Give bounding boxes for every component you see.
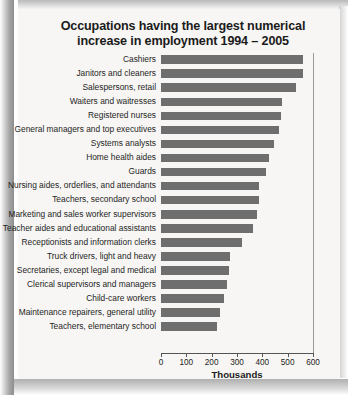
x-axis-tick-label: 200 — [205, 358, 219, 367]
bar — [161, 252, 230, 261]
x-axis-title: Thousands — [161, 369, 313, 380]
bar — [161, 266, 229, 275]
bar-row: Salespersons, retail — [18, 81, 340, 95]
bar-row: Nursing aides, orderlies, and attendants — [18, 179, 340, 193]
page-edge-shadow-right — [339, 6, 348, 378]
page-edge-shadow-bottom — [14, 379, 348, 395]
bar-category-label: Teacher aides and educational assistants — [3, 222, 156, 235]
bar-row: Guards — [18, 165, 340, 179]
bar-category-label: Marketing and sales worker supervisors — [8, 208, 156, 221]
scanned-page: Occupations having the largest numerical… — [0, 0, 348, 395]
bar-category-label: Systems analysts — [91, 137, 156, 150]
bar-row: Child-care workers — [18, 292, 340, 306]
plot-right-border — [313, 53, 314, 353]
bar-row: General managers and top executives — [18, 123, 340, 137]
bar — [161, 168, 266, 177]
bar-row: Clerical supervisors and managers — [18, 278, 340, 292]
bar — [161, 210, 257, 219]
bar — [161, 83, 296, 92]
bar — [161, 98, 282, 107]
bar — [161, 224, 253, 233]
bar-category-label: Child-care workers — [86, 292, 156, 305]
page-edge-shadow-left — [0, 0, 14, 395]
x-axis-tick-label: 0 — [159, 358, 164, 367]
bar — [161, 182, 259, 191]
bar — [161, 238, 242, 247]
bar-category-label: Guards — [129, 165, 156, 178]
x-axis-tick-label: 400 — [255, 358, 269, 367]
bar-row: Cashiers — [18, 53, 340, 67]
x-axis-tick-label: 600 — [306, 358, 320, 367]
bar-chart-plot-area: CashiersJanitors and cleanersSalesperson… — [18, 53, 340, 353]
x-axis-tick-label: 500 — [281, 358, 295, 367]
bar-category-label: General managers and top executives — [14, 123, 156, 136]
bar — [161, 126, 279, 135]
bar-category-label: Salespersons, retail — [82, 81, 156, 94]
bar-category-label: Secretaries, except legal and medical — [17, 264, 156, 277]
bar — [161, 140, 274, 149]
bar-category-label: Registered nurses — [88, 109, 156, 122]
chart-title: Occupations having the largest numerical… — [38, 19, 328, 49]
x-axis-tick — [288, 353, 289, 357]
bar-row: Teacher aides and educational assistants — [18, 222, 340, 236]
bar-row: Secretaries, except legal and medical — [18, 264, 340, 278]
bar-row: Janitors and cleaners — [18, 67, 340, 81]
bar-category-label: Waiters and waitresses — [70, 95, 156, 108]
bar-category-label: Truck drivers, light and heavy — [47, 250, 156, 263]
bar — [161, 69, 303, 78]
bar-row: Marketing and sales worker supervisors — [18, 208, 340, 222]
bar-row: Truck drivers, light and heavy — [18, 250, 340, 264]
bar-category-label: Teachers, elementary school — [49, 320, 156, 333]
x-axis-tick-label: 100 — [179, 358, 193, 367]
bar-category-label: Receptionists and information clerks — [21, 236, 156, 249]
chart-sheet: Occupations having the largest numerical… — [18, 9, 340, 379]
x-axis-tick-label: 300 — [230, 358, 244, 367]
bar — [161, 55, 303, 64]
bar — [161, 308, 220, 317]
x-axis-tick — [262, 353, 263, 357]
bar-category-label: Teachers, secondary school — [52, 193, 156, 206]
page-edge-shadow-top — [18, 0, 348, 9]
bar-category-label: Janitors and cleaners — [76, 67, 156, 80]
bar-row: Waiters and waitresses — [18, 95, 340, 109]
bar-row: Maintenance repairers, general utility — [18, 306, 340, 320]
bar-category-label: Cashiers — [123, 53, 156, 66]
bar-category-label: Nursing aides, orderlies, and attendants — [8, 179, 156, 192]
bar — [161, 294, 224, 303]
bar-row: Home health aides — [18, 151, 340, 165]
x-axis-tick — [161, 353, 162, 357]
bar-row: Systems analysts — [18, 137, 340, 151]
bar-row: Receptionists and information clerks — [18, 236, 340, 250]
bar-category-label: Clerical supervisors and managers — [27, 278, 156, 291]
bar — [161, 196, 259, 205]
x-axis-tick — [237, 353, 238, 357]
bar-category-label: Maintenance repairers, general utility — [19, 306, 156, 319]
bar-row: Teachers, elementary school — [18, 320, 340, 334]
bar — [161, 112, 281, 121]
bar-row: Registered nurses — [18, 109, 340, 123]
bar-row: Teachers, secondary school — [18, 193, 340, 207]
x-axis-tick — [313, 353, 314, 357]
bar — [161, 154, 269, 163]
bar — [161, 280, 227, 289]
bar-category-label: Home health aides — [86, 151, 156, 164]
bar — [161, 322, 217, 331]
x-axis-tick — [186, 353, 187, 357]
x-axis-tick — [212, 353, 213, 357]
